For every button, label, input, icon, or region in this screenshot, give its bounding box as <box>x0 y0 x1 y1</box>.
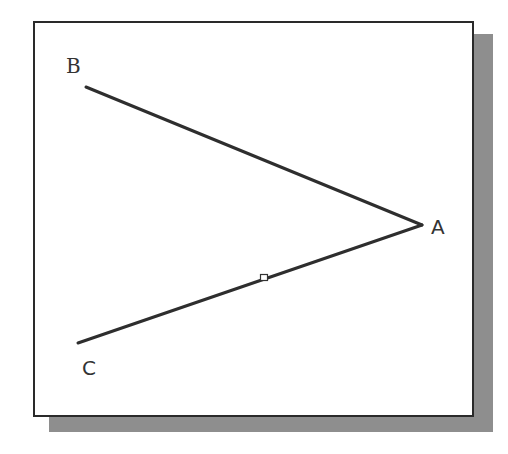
point-c-label: C <box>82 358 96 378</box>
point-b-label: B <box>66 56 81 76</box>
point-a-label: A <box>431 217 445 237</box>
midpoint-marker <box>261 275 268 281</box>
segment-ac <box>78 225 422 343</box>
segment-ab <box>86 87 422 225</box>
